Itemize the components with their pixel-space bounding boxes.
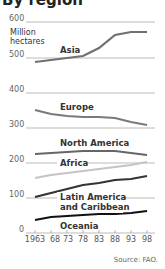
label-oceania: Oceania: [60, 221, 99, 231]
series-africa: [35, 162, 147, 178]
label-europe: Europe: [60, 102, 94, 112]
label-latin-america-line2: and Caribbean: [60, 202, 130, 212]
y-tick-200: 200: [9, 155, 24, 164]
x-tick-98: 98: [142, 235, 152, 244]
x-tick-78: 78: [78, 235, 88, 244]
y-axis-unit-line2: hectares: [10, 37, 45, 46]
y-tick-400: 400: [9, 85, 24, 94]
y-tick-100: 100: [9, 190, 24, 199]
x-tick-88: 88: [110, 235, 120, 244]
x-tick-83: 83: [94, 235, 104, 244]
y-axis-unit-line1: Million: [10, 28, 36, 37]
series-europe: [35, 110, 147, 125]
source-note: Source: FAO.: [114, 256, 158, 264]
series-north-america: [35, 151, 147, 155]
x-tick-1963: 1963: [25, 235, 45, 244]
x-tick-73: 73: [63, 235, 73, 244]
y-tick-600: 600: [9, 14, 24, 23]
label-asia: Asia: [60, 45, 81, 55]
x-tick-93: 93: [126, 235, 136, 244]
x-tick-68: 68: [50, 235, 60, 244]
line-chart: 600 500 400 300 200 100 0 Million hectar…: [0, 0, 165, 269]
series-asia: [35, 32, 147, 62]
label-latin-america-line1: Latin America: [60, 192, 126, 202]
label-north-america: North America: [60, 138, 130, 148]
y-tick-300: 300: [9, 120, 24, 129]
y-tick-0: 0: [19, 225, 24, 234]
label-africa: Africa: [60, 158, 88, 168]
y-tick-500: 500: [9, 50, 24, 59]
